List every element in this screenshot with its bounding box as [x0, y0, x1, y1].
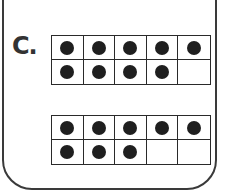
ten-frame-cell — [178, 60, 210, 84]
counter-dot-icon — [187, 121, 201, 135]
counter-dot-icon — [92, 41, 106, 55]
counter-dot-icon — [155, 41, 169, 55]
ten-frame-cell — [178, 36, 210, 60]
counter-dot-icon — [123, 121, 137, 135]
problem-label: C. — [12, 32, 37, 60]
counter-dot-icon — [155, 65, 169, 79]
ten-frame-cell — [115, 36, 147, 60]
ten-frame-cell — [84, 116, 116, 140]
counter-dot-icon — [92, 65, 106, 79]
ten-frame-cell — [84, 36, 116, 60]
bottom-ten-frame — [51, 115, 211, 165]
ten-frame-cell — [147, 140, 179, 164]
ten-frame-cell — [178, 140, 210, 164]
counter-dot-icon — [123, 145, 137, 159]
ten-frame-cell — [52, 140, 84, 164]
counter-dot-icon — [92, 121, 106, 135]
counter-dot-icon — [187, 41, 201, 55]
counter-dot-icon — [123, 41, 137, 55]
counter-dot-icon — [60, 41, 74, 55]
ten-frame-cell — [84, 60, 116, 84]
ten-frame-cell — [52, 60, 84, 84]
counter-dot-icon — [60, 65, 74, 79]
ten-frame-cell — [147, 116, 179, 140]
ten-frame-cell — [52, 116, 84, 140]
counter-dot-icon — [60, 121, 74, 135]
counter-dot-icon — [123, 65, 137, 79]
top-ten-frame — [51, 35, 211, 85]
ten-frame-cell — [115, 140, 147, 164]
ten-frame-cell — [52, 36, 84, 60]
ten-frame-cell — [84, 140, 116, 164]
ten-frame-cell — [115, 116, 147, 140]
ten-frame-cell — [178, 116, 210, 140]
counter-dot-icon — [92, 145, 106, 159]
ten-frame-cell — [115, 60, 147, 84]
counter-dot-icon — [155, 121, 169, 135]
ten-frame-cell — [147, 60, 179, 84]
ten-frame-cell — [147, 36, 179, 60]
counter-dot-icon — [60, 145, 74, 159]
